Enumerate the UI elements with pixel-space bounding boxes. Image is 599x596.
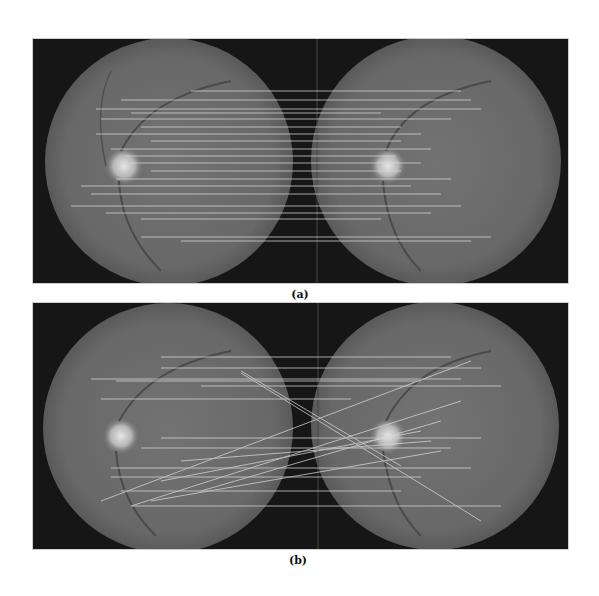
fundus-image-left <box>43 303 293 550</box>
panel-b <box>32 302 569 550</box>
panel-a-graphic <box>33 39 569 284</box>
fundus-image-right <box>311 39 561 284</box>
caption-a: (a) <box>270 288 330 301</box>
panel-b-graphic <box>33 303 569 550</box>
panel-a <box>32 38 569 284</box>
fundus-image-left <box>45 39 293 284</box>
fundus-image-right <box>311 303 559 550</box>
figure: (a) <box>0 0 599 596</box>
caption-b: (b) <box>268 554 328 567</box>
